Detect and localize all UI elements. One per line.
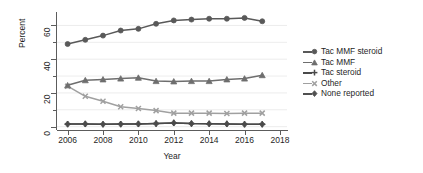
y-tick [51,93,56,94]
legend-item-none-reported[interactable]: None reported [303,89,421,99]
y-tick-label: 20 [43,93,52,107]
diamond-marker [303,89,318,98]
x-tick-label: 2018 [270,136,289,145]
triangle-marker [303,58,318,67]
x-tick-label: 2006 [58,136,77,145]
y-tick-label: 0 [43,126,52,140]
data-series-layer [57,12,287,130]
x-tick-label: 2016 [235,136,254,145]
legend-label: None reported [321,89,374,98]
legend-label: Other [321,79,342,88]
plot-area [57,12,287,130]
y-axis-title: Percent [18,19,27,48]
y-axis-line [56,12,57,130]
y-tick-label: 60 [43,25,52,39]
y-tick-minor [53,110,56,111]
legend-label: Tac steroid [321,68,361,77]
legend-item-tac-mmf[interactable]: Tac MMF [303,57,421,67]
series-tac-steroid [65,120,266,128]
y-tick-minor [53,42,56,43]
series-other [65,84,265,116]
plus-marker [303,68,318,77]
legend-item-other[interactable]: Other [303,78,421,88]
x-marker [303,79,318,88]
x-axis-line [57,130,288,131]
x-tick-label: 2012 [164,136,183,145]
circle-marker [303,47,318,56]
legend-label: Tac MMF [321,58,355,67]
series-tac-mmf-steroid [65,15,265,46]
x-tick-label: 2014 [200,136,219,145]
y-tick [51,127,56,128]
x-tick-label: 2008 [94,136,113,145]
legend-label: Tac MMF steroid [321,47,382,56]
line-chart-figure: 0204060 2006200820102012201420162018 Per… [0,0,423,173]
y-tick-minor [53,76,56,77]
y-tick [51,59,56,60]
legend-item-tac-mmf-steroid[interactable]: Tac MMF steroid [303,47,421,57]
y-tick [51,25,56,26]
series-tac-mmf [65,72,266,88]
plot-inner [57,12,287,130]
legend-item-tac-steroid[interactable]: Tac steroid [303,68,421,78]
y-tick-label: 40 [43,59,52,73]
x-axis-title: Year [163,152,180,161]
chart-legend: Tac MMF steroidTac MMFTac steroidOtherNo… [303,47,421,99]
x-tick-label: 2010 [129,136,148,145]
